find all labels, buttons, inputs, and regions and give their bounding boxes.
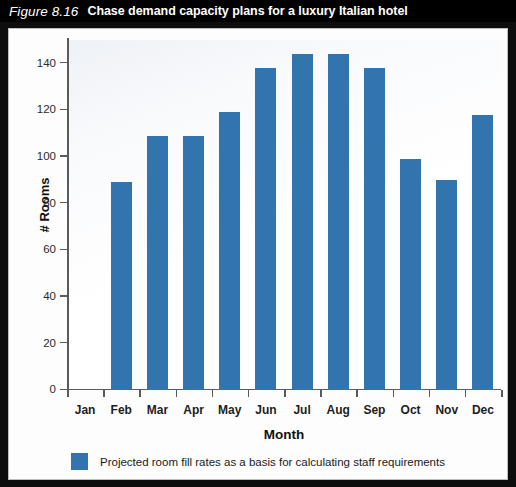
x-label-may: May — [218, 403, 241, 417]
bar-feb — [111, 182, 132, 390]
x-label-aug: Aug — [327, 403, 350, 417]
x-tick — [429, 390, 431, 397]
bar-mar — [147, 136, 168, 390]
y-tick-label: 20 — [43, 337, 56, 349]
x-tick — [67, 390, 69, 397]
bar-oct — [400, 159, 421, 390]
x-tick — [212, 390, 214, 397]
y-tick-label: 100 — [37, 150, 56, 162]
y-tick-140: 140 — [60, 62, 67, 64]
x-tick — [139, 390, 141, 397]
y-tick-60: 60 — [60, 249, 67, 251]
chart-legend: Projected room fill rates as a basis for… — [9, 453, 507, 470]
y-tick-label: 120 — [37, 103, 56, 115]
bar-dec — [472, 115, 493, 390]
x-label-dec: Dec — [472, 403, 494, 417]
y-tick-label: 0 — [50, 383, 56, 395]
figure-title: Chase demand capacity plans for a luxury… — [87, 4, 407, 18]
x-tick — [393, 390, 395, 397]
x-label-feb: Feb — [111, 403, 132, 417]
plot-area: 020406080100120140 JanFebMarAprMayJunJul… — [67, 40, 501, 390]
x-axis-title: Month — [67, 427, 501, 442]
y-tick-label: 40 — [43, 290, 56, 302]
bar-aug — [328, 54, 349, 390]
bar-jul — [292, 54, 313, 390]
x-tick — [284, 390, 286, 397]
figure-title-bar: Figure 8.16 Chase demand capacity plans … — [0, 0, 516, 22]
figure-number: Figure 8.16 — [9, 4, 78, 19]
x-label-jul: Jul — [293, 403, 310, 417]
x-label-apr: Apr — [183, 403, 204, 417]
legend-label: Projected room fill rates as a basis for… — [100, 456, 445, 468]
x-tick — [356, 390, 358, 397]
bar-nov — [436, 180, 457, 390]
x-label-jan: Jan — [75, 403, 96, 417]
x-label-oct: Oct — [401, 403, 421, 417]
y-axis-line — [67, 38, 69, 390]
legend-swatch-icon — [71, 453, 88, 470]
y-tick-label: 80 — [43, 197, 56, 209]
y-tick-80: 80 — [60, 202, 67, 204]
bar-may — [219, 112, 240, 390]
x-tick — [465, 390, 467, 397]
chart-panel: # Rooms 020406080100120140 JanFebMarAprM… — [8, 28, 508, 480]
x-tick — [248, 390, 250, 397]
y-tick-label: 140 — [37, 57, 56, 69]
y-tick-label: 60 — [43, 243, 56, 255]
y-tick-100: 100 — [60, 155, 67, 157]
y-tick-120: 120 — [60, 109, 67, 111]
x-tick — [176, 390, 178, 397]
x-label-nov: Nov — [435, 403, 458, 417]
x-label-sep: Sep — [363, 403, 385, 417]
bar-sep — [364, 68, 385, 390]
x-label-jun: Jun — [255, 403, 276, 417]
x-tick — [320, 390, 322, 397]
bar-apr — [183, 136, 204, 390]
x-label-mar: Mar — [147, 403, 168, 417]
bar-jun — [255, 68, 276, 390]
y-tick-20: 20 — [60, 342, 67, 344]
y-tick-40: 40 — [60, 295, 67, 297]
y-tick-0: 0 — [60, 389, 67, 391]
figure-container: Figure 8.16 Chase demand capacity plans … — [0, 0, 516, 487]
x-tick — [501, 390, 503, 397]
x-tick — [103, 390, 105, 397]
